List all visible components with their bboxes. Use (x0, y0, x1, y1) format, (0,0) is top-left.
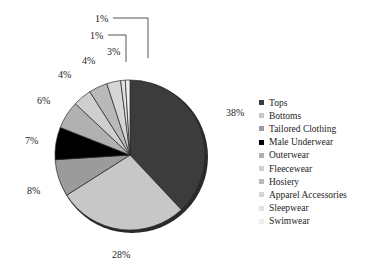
legend-item[interactable]: Fleecewear (259, 162, 382, 175)
legend-item-label: Tailored Clothing (269, 124, 336, 134)
legend-item[interactable]: Outerwear (259, 149, 382, 162)
slice-value-label: 4% (58, 70, 71, 80)
legend-item-label: Hosiery (269, 177, 299, 187)
legend-item-label: Outerwear (269, 150, 309, 160)
slice-value-label: 38% (226, 108, 244, 118)
pie-chart-figure: 38%28%8%7%6%4%4%3%1%1% TopsBottomsTailor… (0, 0, 382, 272)
legend-item[interactable]: Tops (259, 96, 382, 109)
slice-value-label: 4% (82, 56, 95, 66)
legend-item[interactable]: Swimwear (259, 215, 382, 228)
legend-item[interactable]: Sleepwear (259, 202, 382, 215)
legend-swatch-icon (259, 192, 264, 197)
pie-slices-group (55, 80, 205, 230)
legend-swatch-icon (259, 100, 264, 105)
legend-swatch-icon (259, 153, 264, 158)
legend-item-label: Swimwear (269, 216, 310, 226)
legend-item-label: Tops (269, 98, 287, 108)
legend-item[interactable]: Apparel Accessories (259, 188, 382, 201)
legend-swatch-icon (259, 179, 264, 184)
pie-svg (0, 0, 258, 272)
legend-swatch-icon (259, 140, 264, 145)
pie-plot-area: 38%28%8%7%6%4%4%3%1%1% (0, 0, 258, 272)
legend-item-label: Fleecewear (269, 164, 312, 174)
slice-value-label: 8% (27, 186, 40, 196)
legend-item-label: Male Underwear (269, 137, 333, 147)
legend: TopsBottomsTailored ClothingMale Underwe… (259, 96, 382, 228)
legend-swatch-icon (259, 113, 264, 118)
legend-swatch-icon (259, 166, 264, 171)
legend-swatch-icon (259, 219, 264, 224)
legend-swatch-icon (259, 206, 264, 211)
legend-item[interactable]: Tailored Clothing (259, 122, 382, 135)
legend-item-label: Sleepwear (269, 203, 309, 213)
slice-value-label: 1% (90, 31, 103, 41)
legend-item-label: Bottoms (269, 111, 301, 121)
legend-item[interactable]: Hosiery (259, 175, 382, 188)
legend-item[interactable]: Bottoms (259, 109, 382, 122)
slice-value-label: 7% (25, 136, 38, 146)
legend-item[interactable]: Male Underwear (259, 136, 382, 149)
slice-value-label: 1% (95, 14, 108, 24)
legend-item-label: Apparel Accessories (269, 190, 347, 200)
slice-value-label: 6% (37, 96, 50, 106)
legend-swatch-icon (259, 126, 264, 131)
slice-value-label: 3% (107, 47, 120, 57)
slice-value-label: 28% (112, 250, 130, 260)
